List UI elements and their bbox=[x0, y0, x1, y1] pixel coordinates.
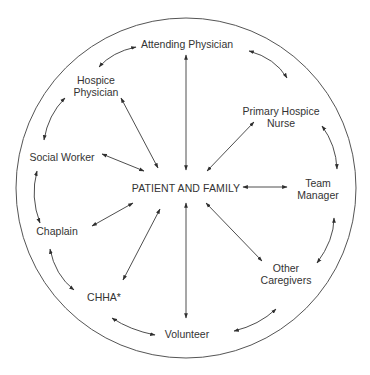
node-label-line2: Physician bbox=[74, 86, 119, 98]
arrow-hospice-phys-attending bbox=[99, 47, 136, 67]
node-social-worker: Social Worker bbox=[29, 151, 94, 163]
arrow-other-center bbox=[206, 203, 262, 261]
node-label-line1: Team bbox=[297, 177, 338, 189]
node-label: Social Worker bbox=[29, 151, 94, 163]
node-chha: CHHA* bbox=[87, 291, 121, 303]
node-label: Chaplain bbox=[36, 225, 77, 237]
node-volunteer: Volunteer bbox=[165, 328, 209, 340]
node-label-line2: Manager bbox=[297, 189, 338, 201]
node-primary-hospice-nurse: Primary Hospice Nurse bbox=[242, 105, 319, 129]
center-node-patient-family: PATIENT AND FAMILY bbox=[132, 182, 240, 194]
arrow-hospice-phys-center bbox=[121, 98, 158, 168]
node-label: CHHA* bbox=[87, 291, 121, 303]
node-chaplain: Chaplain bbox=[36, 225, 77, 237]
arrow-social-hospice-phys bbox=[44, 98, 65, 140]
arrow-manager-other bbox=[317, 218, 334, 263]
arrow-chha-center bbox=[123, 209, 160, 280]
node-hospice-physician: Hospice Physician bbox=[74, 74, 119, 98]
node-label: Volunteer bbox=[165, 328, 209, 340]
node-label-line2: Nurse bbox=[242, 117, 319, 129]
node-label-line2: Caregivers bbox=[261, 274, 312, 286]
node-label: Attending Physician bbox=[141, 38, 233, 50]
arrow-attending-nurse bbox=[249, 51, 287, 78]
arrow-social-center bbox=[102, 154, 144, 171]
arrow-other-volunteer bbox=[234, 309, 276, 331]
arrow-chha-chaplain bbox=[50, 249, 74, 290]
node-label-line1: Other bbox=[261, 262, 312, 274]
node-attending-physician: Attending Physician bbox=[141, 38, 233, 50]
arrow-volunteer-chha bbox=[112, 318, 155, 335]
arrow-chaplain-center bbox=[92, 203, 133, 226]
center-label: PATIENT AND FAMILY bbox=[132, 182, 240, 194]
node-other-caregivers: Other Caregivers bbox=[261, 262, 312, 286]
arrow-nurse-manager bbox=[322, 126, 337, 169]
care-team-diagram: PATIENT AND FAMILY Attending Physician P… bbox=[0, 0, 370, 375]
arrow-nurse-center bbox=[207, 122, 254, 171]
node-label-line1: Hospice bbox=[74, 74, 119, 86]
node-team-manager: Team Manager bbox=[297, 177, 338, 201]
node-label-line1: Primary Hospice bbox=[242, 105, 319, 117]
arrow-chaplain-social bbox=[34, 171, 40, 223]
